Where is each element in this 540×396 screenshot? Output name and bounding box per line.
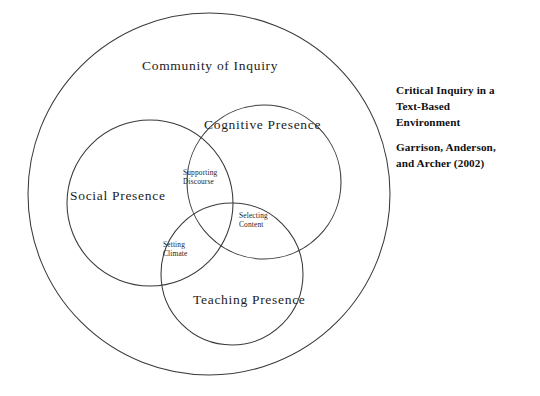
setting-climate-label: Setting Climate	[163, 240, 187, 259]
teaching-presence-circle	[161, 203, 303, 345]
selecting-content-line2: Content	[239, 220, 268, 229]
caption-title: Critical Inquiry in a Text-Based Environ…	[396, 83, 536, 131]
caption-authors-line1: Garrison, Anderson,	[396, 140, 536, 156]
setting-climate-line1: Setting	[163, 240, 187, 249]
source-caption: Critical Inquiry in a Text-Based Environ…	[396, 83, 536, 172]
supporting-discourse-line2: Discourse	[183, 177, 217, 186]
selecting-content-line1: Selecting	[239, 211, 268, 220]
social-presence-label: Social Presence	[70, 188, 166, 203]
cognitive-presence-label: Cognitive Presence	[204, 117, 321, 132]
supporting-discourse-label: Supporting Discourse	[183, 168, 217, 187]
teaching-presence-label: Teaching Presence	[193, 292, 306, 307]
caption-title-line1: Critical Inquiry in a	[396, 83, 536, 99]
supporting-discourse-line1: Supporting	[183, 168, 217, 177]
community-of-inquiry-label: Community of Inquiry	[142, 58, 278, 73]
caption-title-line3: Environment	[396, 115, 536, 131]
selecting-content-label: Selecting Content	[239, 211, 268, 230]
caption-authors: Garrison, Anderson, and Archer (2002)	[396, 140, 536, 172]
caption-title-line2: Text-Based	[396, 99, 536, 115]
caption-authors-line2: and Archer (2002)	[396, 156, 536, 172]
setting-climate-line2: Climate	[163, 249, 187, 258]
diagram-canvas: Community of Inquiry Cognitive Presence …	[0, 0, 540, 396]
